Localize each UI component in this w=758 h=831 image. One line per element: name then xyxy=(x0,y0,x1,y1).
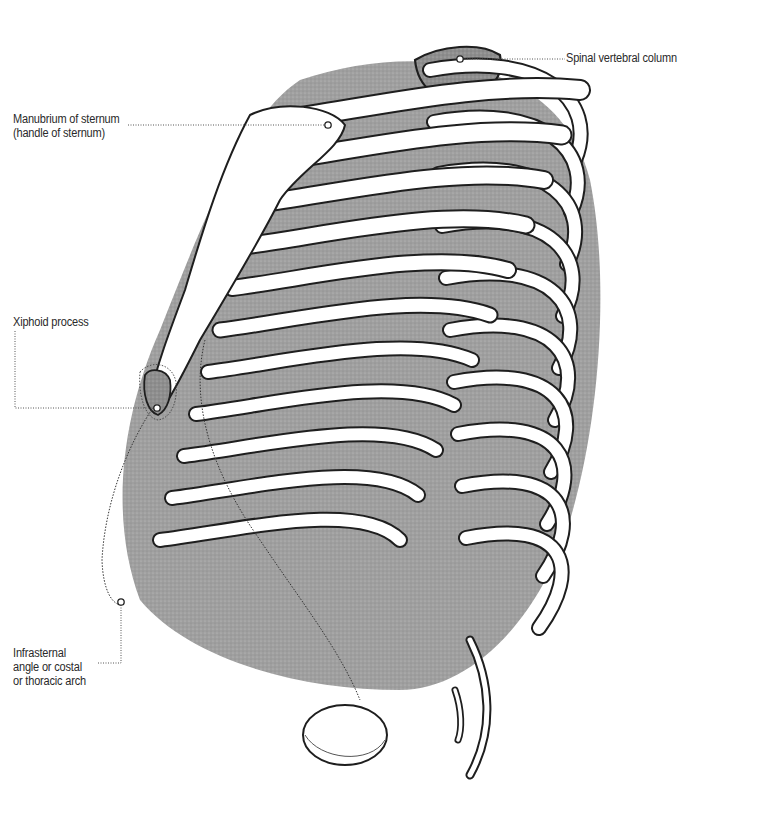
marker-manubrium xyxy=(325,122,331,128)
label-spinal-vertebral-column: Spinal vertebral column xyxy=(566,51,677,65)
leader-xiphoid xyxy=(15,331,155,408)
label-xiphoid-process: Xiphoid process xyxy=(13,315,89,329)
leader-infrasternal xyxy=(98,604,121,663)
label-line: angle or costal xyxy=(13,660,86,674)
label-line: Infrasternal xyxy=(13,646,86,660)
marker-xiphoid xyxy=(154,405,160,411)
label-manubrium-of-sternum: Manubrium of sternum (handle of sternum) xyxy=(13,112,120,140)
marker-infrasternal xyxy=(118,599,124,605)
label-line: Manubrium of sternum xyxy=(13,112,120,126)
label-line: or thoracic arch xyxy=(13,674,86,688)
marker-spinal xyxy=(457,56,463,62)
label-infrasternal-angle: Infrasternal angle or costal or thoracic… xyxy=(13,646,86,688)
label-line: (handle of sternum) xyxy=(13,126,120,140)
label-line: Xiphoid process xyxy=(13,315,89,329)
label-line: Spinal vertebral column xyxy=(566,51,677,65)
rib-cage-diagram: Manubrium of sternum (handle of sternum)… xyxy=(0,0,758,831)
lumbar-vertebra xyxy=(303,705,387,765)
